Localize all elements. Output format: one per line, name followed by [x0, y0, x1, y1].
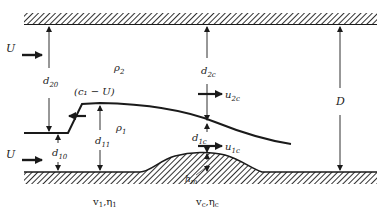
label-D: D — [335, 95, 345, 108]
label-rho1: ρ1 — [115, 122, 126, 136]
label-rho2: ρ2 — [113, 62, 125, 76]
label-d10: d10 — [52, 147, 68, 161]
label-u2c: u2c — [225, 89, 240, 103]
top-wall — [24, 13, 377, 25]
label-d20: d20 — [43, 75, 59, 89]
interface-line — [24, 103, 291, 144]
label-vc-etac: vc,ηc — [195, 196, 219, 209]
label-d1c: d1c — [192, 132, 207, 146]
two-layer-flow-diagram: (c₁ − U) U U d20 d10 d11 ρ2 ρ1 d2c u2c d… — [0, 0, 391, 219]
label-U-top: U — [6, 42, 16, 55]
label-v1-eta1: v1,η1 — [92, 196, 117, 209]
label-c1-minus-U: (c₁ − U) — [74, 86, 115, 97]
label-u1c: u1c — [225, 141, 240, 155]
label-d11: d11 — [95, 135, 110, 149]
bottom-wall — [24, 152, 377, 184]
label-U-bottom: U — [6, 148, 16, 161]
label-d2c: d2c — [201, 65, 216, 79]
